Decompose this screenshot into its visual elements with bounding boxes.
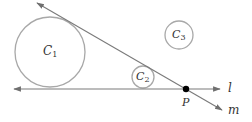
label-c2: C2 xyxy=(136,71,150,84)
label-c3: C3 xyxy=(172,29,186,42)
label-c1-sub: 1 xyxy=(52,50,57,59)
diagram-canvas: C1 C2 C3 l m P xyxy=(0,0,252,122)
label-line-m: m xyxy=(228,104,239,116)
label-c3-sub: 3 xyxy=(180,33,185,42)
label-c1-letter: C xyxy=(43,44,52,58)
line-m xyxy=(37,3,222,110)
point-p xyxy=(183,86,189,92)
label-c1: C1 xyxy=(43,45,57,59)
label-point-p: P xyxy=(182,97,189,108)
diagram-svg xyxy=(0,0,252,122)
label-line-l: l xyxy=(228,82,232,94)
label-c2-sub: 2 xyxy=(144,75,149,84)
